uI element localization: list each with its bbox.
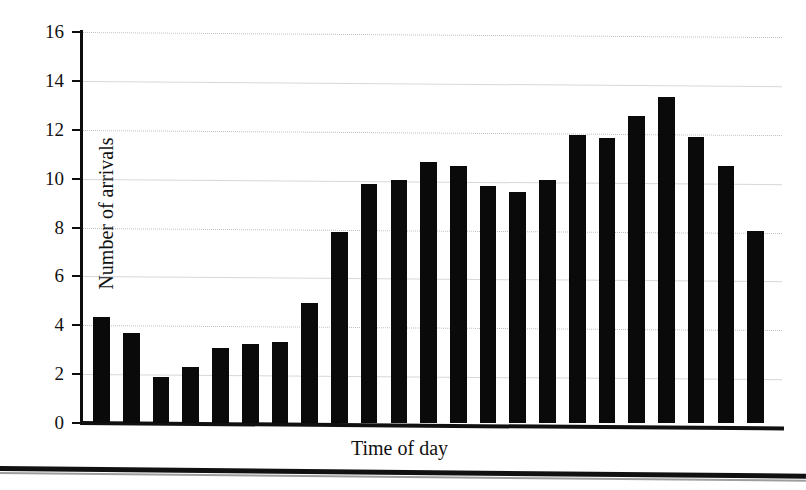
bar: [212, 348, 229, 423]
bar: [361, 184, 378, 423]
bar: [599, 138, 616, 423]
bar: [182, 367, 199, 423]
bar: [123, 333, 140, 423]
y-axis-tick-label: 2: [24, 364, 64, 383]
y-axis-tick-label: 8: [24, 218, 64, 237]
bar: [153, 377, 170, 423]
bar: [688, 137, 705, 423]
y-axis-tick-label: 0: [24, 413, 64, 432]
bar: [480, 186, 497, 423]
y-axis-tick-label: 4: [24, 315, 64, 334]
bar: [509, 192, 526, 423]
y-axis-tick-label: 12: [24, 120, 64, 139]
bar: [569, 135, 586, 423]
bar: [301, 303, 318, 423]
bar: [747, 231, 764, 423]
bar: [539, 180, 556, 423]
bar: [658, 97, 675, 423]
bar: [391, 180, 408, 423]
y-axis-tick-label: 16: [24, 22, 64, 41]
y-axis-tick-label: 14: [24, 71, 64, 90]
bar-series: [82, 32, 782, 423]
bar: [331, 232, 348, 423]
bar: [272, 342, 289, 423]
bar: [628, 116, 645, 423]
bar: [450, 166, 467, 423]
bar: [420, 162, 437, 423]
bar: [718, 166, 735, 423]
y-axis-tick-label: 6: [24, 266, 64, 285]
y-axis-tick-label: 10: [24, 169, 64, 188]
x-axis-title: Time of day: [0, 437, 799, 460]
bar: [93, 317, 110, 423]
bar: [242, 344, 259, 423]
